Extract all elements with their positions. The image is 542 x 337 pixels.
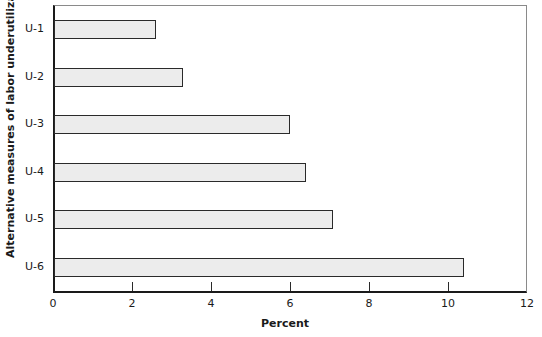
bar-u-4: [54, 163, 306, 182]
x-tick: [290, 282, 291, 291]
x-tick: [132, 282, 133, 291]
x-tick-label: 4: [196, 297, 226, 310]
category-label: U-2: [14, 70, 44, 83]
x-tick-label: 2: [117, 297, 147, 310]
bar-u-3: [54, 115, 290, 134]
bar-u-5: [54, 210, 333, 229]
category-label: U-5: [14, 212, 44, 225]
bar-chart: U-1U-2U-3U-4U-5U-6 024681012 Percent Alt…: [0, 0, 542, 337]
bar-u-6: [54, 258, 464, 277]
x-tick-label: 12: [512, 297, 542, 310]
category-label: U-4: [14, 165, 44, 178]
bar-u-1: [54, 20, 156, 39]
x-tick-label: 8: [354, 297, 384, 310]
x-tick-label: 6: [275, 297, 305, 310]
x-tick-label: 10: [433, 297, 463, 310]
x-tick: [369, 282, 370, 291]
x-axis-title: Percent: [235, 317, 335, 330]
bar-u-2: [54, 68, 183, 87]
x-tick: [211, 282, 212, 291]
category-label: U-1: [14, 22, 44, 35]
category-label: U-3: [14, 117, 44, 130]
x-tick: [448, 282, 449, 291]
y-axis-title: Alternative measures of labor underutili…: [4, 0, 17, 258]
x-tick-label: 0: [38, 297, 68, 310]
category-label: U-6: [14, 260, 44, 273]
plot-area: [53, 5, 527, 293]
